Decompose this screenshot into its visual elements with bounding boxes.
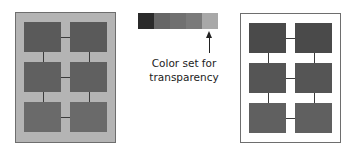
swatch-color-3 (186, 13, 202, 29)
diagram-box (70, 22, 107, 52)
diagram-box (249, 103, 286, 133)
vertical-connector (89, 52, 90, 62)
diagram-box (249, 63, 286, 93)
color-swatch-bar (138, 13, 218, 29)
caption-line-1: Color set for (139, 56, 229, 70)
vertical-connector (314, 53, 315, 63)
vertical-connector (89, 92, 90, 102)
vertical-connector (43, 52, 44, 62)
horizontal-connector (286, 118, 295, 119)
swatch-color-2 (170, 13, 186, 29)
diagram-box (70, 102, 107, 132)
diagram-box (24, 102, 61, 132)
diagram-box (24, 62, 61, 92)
arrow-shaft (209, 37, 210, 53)
caption-line-2: transparency (139, 70, 229, 84)
horizontal-connector (61, 77, 70, 78)
horizontal-connector (61, 117, 70, 118)
diagram-box (24, 22, 61, 52)
diagram-box (249, 23, 286, 53)
left-panel-gray-background (15, 12, 116, 143)
swatch-color-0 (138, 13, 154, 29)
horizontal-connector (286, 38, 295, 39)
vertical-connector (268, 53, 269, 63)
diagram-box (295, 23, 332, 53)
right-panel-transparent-background (240, 13, 341, 143)
vertical-connector (314, 93, 315, 103)
transparency-caption: Color set for transparency (139, 56, 229, 84)
vertical-connector (43, 92, 44, 102)
diagram-box (295, 103, 332, 133)
swatch-color-1 (154, 13, 170, 29)
diagram-box (295, 63, 332, 93)
diagram-box (70, 62, 107, 92)
horizontal-connector (61, 37, 70, 38)
horizontal-connector (286, 78, 295, 79)
swatch-color-transparent (202, 13, 218, 29)
vertical-connector (268, 93, 269, 103)
